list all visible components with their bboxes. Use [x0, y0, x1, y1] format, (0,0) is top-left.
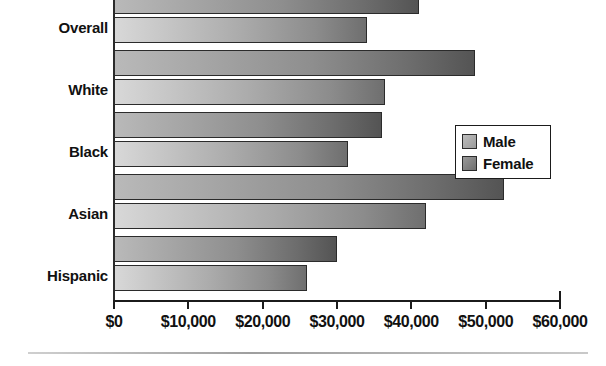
x-tick-label-4: $40,000 [384, 313, 439, 331]
x-tick-label-1: $10,000 [161, 313, 216, 331]
bar-hispanic-female [114, 265, 307, 291]
legend-item-female: Female [462, 152, 550, 174]
x-tick-4 [410, 300, 412, 309]
legend-swatch-female [462, 156, 477, 171]
bar-black-female [114, 141, 348, 167]
x-tick-5 [485, 300, 487, 309]
bar-white-male [114, 50, 475, 76]
category-label-hispanic: Hispanic [4, 268, 108, 283]
x-tick-label-6: $60,000 [532, 313, 587, 331]
category-axis: OverallWhiteBlackAsianHispanic [0, 0, 108, 300]
bar-overall-male [114, 0, 419, 14]
bar-overall-female [114, 17, 367, 43]
category-label-asian: Asian [4, 206, 108, 221]
bottom-divider [28, 352, 588, 354]
x-tick-6 [559, 300, 561, 309]
bar-chart: OverallWhiteBlackAsianHispanic Male Fema… [0, 0, 606, 366]
axis-end-cap-1 [559, 291, 561, 301]
x-tick-label-5: $50,000 [458, 313, 513, 331]
legend-label-male: Male [483, 134, 516, 149]
x-tick-label-0: $0 [106, 313, 123, 331]
bar-black-male [114, 112, 382, 138]
x-tick-label-2: $20,000 [235, 313, 290, 331]
x-tick-0 [113, 300, 115, 309]
x-tick-1 [187, 300, 189, 309]
category-label-black: Black [4, 144, 108, 159]
bar-hispanic-male [114, 236, 337, 262]
x-tick-2 [262, 300, 264, 309]
bar-white-female [114, 79, 385, 105]
legend-swatch-male [462, 134, 477, 149]
category-label-overall: Overall [4, 20, 108, 35]
bar-asian-male [114, 174, 504, 200]
x-tick-label-3: $30,000 [309, 313, 364, 331]
legend-item-male: Male [462, 130, 550, 152]
category-axis-line [113, 0, 115, 300]
legend-label-female: Female [483, 156, 534, 171]
chart-legend: Male Female [455, 125, 551, 179]
x-tick-3 [336, 300, 338, 309]
bar-asian-female [114, 203, 426, 229]
category-label-white: White [4, 82, 108, 97]
